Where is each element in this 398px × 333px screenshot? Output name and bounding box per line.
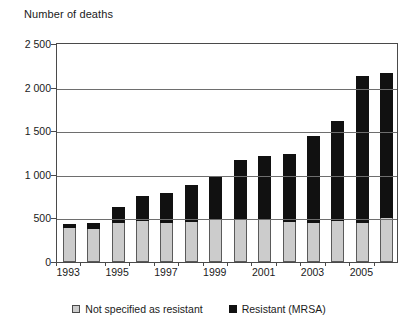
bar-segment-not-specified[interactable]: [331, 221, 344, 262]
bar-segment-resistant[interactable]: [283, 154, 296, 222]
x-tick-mark: [178, 262, 179, 266]
bar-segment-resistant[interactable]: [307, 136, 320, 222]
x-axis: 1993199519971999200120032005: [56, 266, 398, 288]
bar-group[interactable]: [356, 44, 369, 262]
bar-segment-not-specified[interactable]: [209, 220, 222, 262]
bar-group[interactable]: [234, 44, 247, 262]
bar-group[interactable]: [331, 44, 344, 262]
x-tick-label: 2003: [301, 266, 324, 278]
bar-segment-not-specified[interactable]: [160, 223, 173, 262]
bar-segment-resistant[interactable]: [160, 193, 173, 223]
bar-group[interactable]: [380, 44, 393, 262]
bar-segment-resistant[interactable]: [185, 185, 198, 222]
x-tick-mark: [80, 262, 81, 266]
bar-group[interactable]: [136, 44, 149, 262]
x-tick-label: 1993: [57, 266, 80, 278]
gridline: [57, 219, 397, 220]
bar-segment-not-specified[interactable]: [380, 218, 393, 262]
y-tick-label: 2 000: [25, 82, 51, 94]
x-tick-mark: [374, 262, 375, 266]
y-tick-label: 2 500: [25, 38, 51, 50]
bar-segment-not-specified[interactable]: [356, 223, 369, 262]
bar-segment-resistant[interactable]: [331, 121, 344, 221]
x-tick-label: 1995: [105, 266, 128, 278]
bar-segment-not-specified[interactable]: [136, 221, 149, 262]
bar-segment-resistant[interactable]: [380, 73, 393, 219]
bar-group[interactable]: [307, 44, 320, 262]
y-tick-label: 1 500: [25, 125, 51, 137]
legend-item[interactable]: Resistant (MRSA): [229, 303, 326, 315]
y-tick-label: 500: [33, 212, 51, 224]
gridline: [57, 89, 397, 90]
bar-segment-not-specified[interactable]: [112, 223, 125, 262]
x-tick-label: 1999: [203, 266, 226, 278]
bar-segment-resistant[interactable]: [356, 76, 369, 222]
black-square-icon: [229, 305, 237, 313]
bar-segment-resistant[interactable]: [136, 196, 149, 221]
bar-segment-not-specified[interactable]: [258, 220, 271, 262]
gray-square-icon: [72, 305, 80, 313]
bar-segment-not-specified[interactable]: [185, 222, 198, 262]
stacked-bar-chart: Number of deaths 05001 0001 5002 0002 50…: [0, 0, 398, 333]
legend-label: Resistant (MRSA): [242, 303, 326, 315]
y-axis: 05001 0001 5002 0002 500: [0, 0, 51, 333]
plot-area: [56, 43, 398, 263]
bar-segment-not-specified[interactable]: [283, 222, 296, 262]
bar-group[interactable]: [87, 44, 100, 262]
legend-item[interactable]: Not specified as resistant: [72, 303, 202, 315]
bar-segment-not-specified[interactable]: [87, 229, 100, 262]
bar-group[interactable]: [283, 44, 296, 262]
bar-group[interactable]: [209, 44, 222, 262]
bars-layer: [57, 44, 397, 262]
chart-legend: Not specified as resistantResistant (MRS…: [0, 303, 398, 315]
x-tick-mark: [129, 262, 130, 266]
bar-segment-not-specified[interactable]: [63, 228, 76, 262]
bar-segment-resistant[interactable]: [209, 177, 222, 221]
gridline: [57, 132, 397, 133]
bar-group[interactable]: [160, 44, 173, 262]
bar-segment-resistant[interactable]: [234, 160, 247, 220]
bar-group[interactable]: [63, 44, 76, 262]
gridline: [57, 176, 397, 177]
x-tick-label: 2001: [252, 266, 275, 278]
x-tick-mark: [276, 262, 277, 266]
x-tick-mark: [325, 262, 326, 266]
x-tick-label: 1997: [154, 266, 177, 278]
x-tick-mark: [227, 262, 228, 266]
legend-label: Not specified as resistant: [85, 303, 202, 315]
bar-segment-not-specified[interactable]: [234, 220, 247, 262]
bar-group[interactable]: [112, 44, 125, 262]
y-tick-label: 1 000: [25, 169, 51, 181]
bar-group[interactable]: [258, 44, 271, 262]
x-tick-label: 2005: [350, 266, 373, 278]
bar-segment-resistant[interactable]: [258, 156, 271, 221]
bar-segment-resistant[interactable]: [112, 207, 125, 223]
bar-group[interactable]: [185, 44, 198, 262]
bar-segment-not-specified[interactable]: [307, 223, 320, 262]
